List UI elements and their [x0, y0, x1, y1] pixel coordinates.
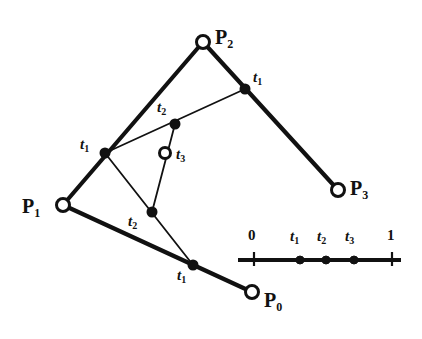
label-t1-lower: t1: [177, 268, 186, 283]
marker-p2: [197, 36, 210, 49]
marker-t1-upper: [241, 85, 250, 94]
segment-t2lower-t2upper: [152, 124, 175, 212]
level1-hull-group: [105, 89, 245, 265]
axis-label-1: 1: [387, 228, 395, 243]
marker-p0: [246, 286, 259, 299]
label-p3: P3: [350, 178, 368, 198]
axis-label-t3: t3: [345, 229, 354, 244]
axis-label-t1: t1: [290, 229, 299, 244]
axis-marker-t2: [322, 256, 330, 264]
marker-p3: [332, 184, 345, 197]
marker-t1-lower: [189, 261, 198, 270]
segment-p1-p2: [63, 42, 203, 205]
label-p0: P0: [264, 290, 282, 310]
axis-label-t2: t2: [317, 229, 326, 244]
construction-svg: [0, 0, 422, 339]
label-t3: t3: [176, 147, 185, 162]
marker-p1: [57, 199, 70, 212]
parameter-axis-group: [238, 252, 401, 266]
marker-t3: [160, 148, 171, 159]
label-t1-upper: t1: [253, 70, 262, 85]
figure-canvas: P0 P1 P2 P3 t1 t1 t1 t2 t2 t3 0 1 t1 t2 …: [0, 0, 422, 339]
label-t2-upper: t2: [157, 100, 166, 115]
level2-hull-group: [152, 124, 175, 212]
segment-p1-p0: [63, 205, 252, 292]
label-p1: P1: [22, 196, 40, 216]
label-p2: P2: [215, 27, 233, 47]
marker-t2-lower: [148, 208, 157, 217]
label-t2-lower: t2: [128, 214, 137, 229]
control-polygon-group: [63, 42, 338, 292]
marker-t2-upper: [171, 120, 180, 129]
label-t1-left: t1: [80, 137, 89, 152]
segment-p2-p3: [203, 42, 338, 190]
marker-t1-left: [101, 149, 110, 158]
axis-marker-t3: [350, 256, 358, 264]
axis-label-0: 0: [248, 228, 256, 243]
axis-marker-t1: [296, 256, 304, 264]
